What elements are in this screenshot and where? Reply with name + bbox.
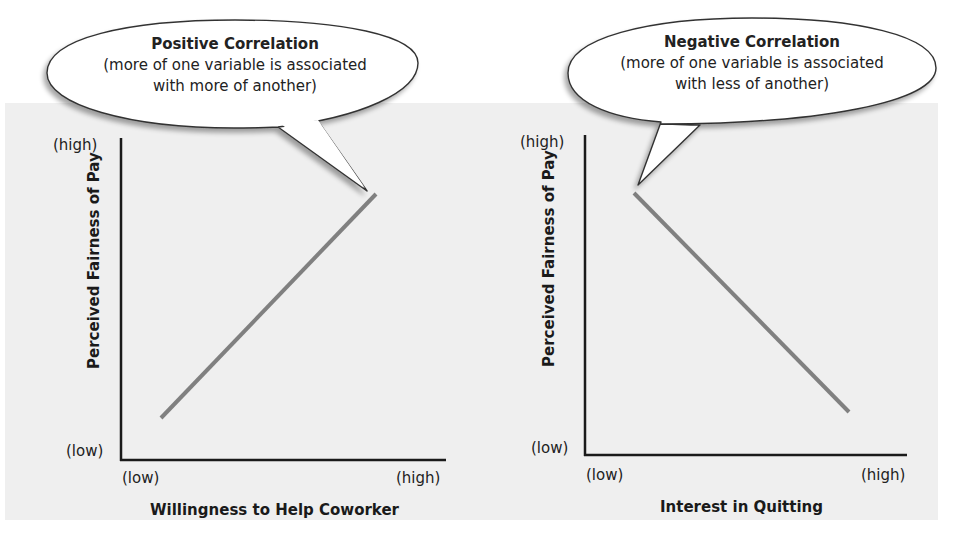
left-x-low-label: (low) [122,469,159,487]
right-y-low-label: (low) [531,439,568,457]
right-bubble-text: Negative Correlation (more of one variab… [576,32,928,95]
right-trend-line [634,193,849,412]
left-x-axis-title: Willingness to Help Coworker [150,501,399,519]
left-trend-line [161,194,376,418]
right-y-axis-title: Perceived Fairness of Pay [540,167,558,367]
left-bubble-text: Positive Correlation (more of one variab… [60,34,410,97]
left-y-low-label: (low) [66,442,103,460]
left-y-axis-title: Perceived Fairness of Pay [85,169,103,369]
left-bubble-line2: with more of another) [60,76,410,97]
right-bubble-line2: with less of another) [576,74,928,95]
right-x-high-label: (high) [861,466,905,484]
right-x-low-label: (low) [586,466,623,484]
right-bubble-title: Negative Correlation [576,32,928,53]
right-y-high-label: (high) [520,133,564,151]
left-bubble-line1: (more of one variable is associated [60,55,410,76]
right-bubble-line1: (more of one variable is associated [576,53,928,74]
left-x-high-label: (high) [396,469,440,487]
left-bubble-title: Positive Correlation [60,34,410,55]
right-x-axis-title: Interest in Quitting [660,498,823,516]
